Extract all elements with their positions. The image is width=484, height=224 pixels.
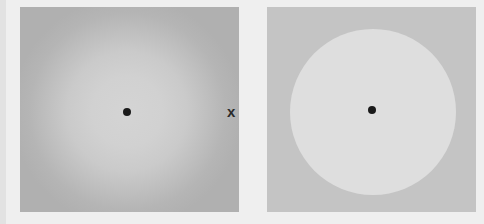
left-edge-strip <box>0 0 6 224</box>
sharp-disk-panel <box>267 7 476 212</box>
fixation-dot-icon <box>123 108 131 116</box>
blurred-disk-panel <box>20 7 239 212</box>
fixation-dot-icon <box>368 106 376 114</box>
x-mark-icon: x <box>227 103 235 121</box>
